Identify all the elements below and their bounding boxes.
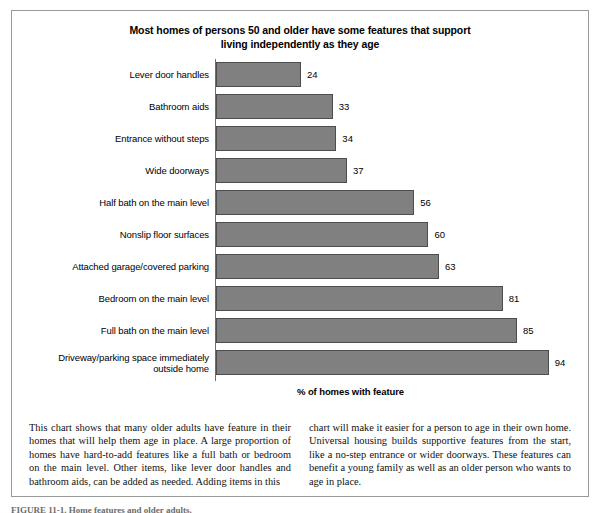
bar-value-label: 60 [434,222,445,247]
chart-title-line-1: Most homes of persons 50 and older have … [50,23,550,37]
bar-row: Lever door handles24 [22,59,578,91]
x-axis-title: % of homes with feature [297,386,404,397]
bar [216,190,414,215]
bar-value-label: 85 [523,318,534,343]
bar-category-label: Full bath on the main level [29,315,209,347]
bar-category-label: Nonslip floor surfaces [29,219,209,251]
bar [216,126,336,151]
bar-value-label: 37 [353,158,364,183]
bar-value-label: 56 [420,190,431,215]
bar-row: Full bath on the main level85 [22,315,578,347]
figure-number-caption: FIGURE 11-1. Home features and older adu… [11,505,341,513]
bar-row: Half bath on the main level56 [22,187,578,219]
bar-category-label: Bedroom on the main level [29,283,209,315]
bar [216,158,347,183]
bar-row: Driveway/parking space immediately outsi… [22,347,578,379]
bar [216,62,301,87]
bar-value-label: 34 [342,126,353,151]
bar [216,222,428,247]
bar [216,286,503,311]
bar-value-label: 24 [307,62,318,87]
figure-frame: Most homes of persons 50 and older have … [11,10,589,497]
bar-value-label: 33 [339,94,350,119]
bar-row: Wide doorways37 [22,155,578,187]
bar-row: Bathroom aids33 [22,91,578,123]
bar-row: Attached garage/covered parking63 [22,251,578,283]
caption-block: This chart shows that many older adults … [12,411,588,496]
bar-category-label: Driveway/parking space immediately outsi… [29,347,209,379]
bar-value-label: 94 [555,350,566,375]
bar-category-label: Wide doorways [29,155,209,187]
bar [216,318,517,343]
chart-title-line-2: living independently as they age [50,37,550,51]
bar-row: Nonslip floor surfaces60 [22,219,578,251]
bar-row: Bedroom on the main level81 [22,283,578,315]
bar-chart: Most homes of persons 50 and older have … [12,11,588,409]
caption-column-left: This chart shows that many older adults … [29,421,291,496]
bar [216,94,333,119]
bar-category-label: Half bath on the main level [29,187,209,219]
caption-column-right: chart will make it easier for a person t… [309,421,571,496]
bar-category-label: Bathroom aids [29,91,209,123]
bar-category-label: Attached garage/covered parking [29,251,209,283]
bar [216,350,549,375]
bar [216,254,439,279]
bar-value-label: 81 [509,286,520,311]
chart-title: Most homes of persons 50 and older have … [50,23,550,51]
bar-row: Entrance without steps34 [22,123,578,155]
bar-category-label: Lever door handles [29,59,209,91]
bar-value-label: 63 [445,254,456,279]
bar-category-label: Entrance without steps [29,123,209,155]
plot-area: Lever door handles24Bathroom aids33Entra… [22,59,578,381]
